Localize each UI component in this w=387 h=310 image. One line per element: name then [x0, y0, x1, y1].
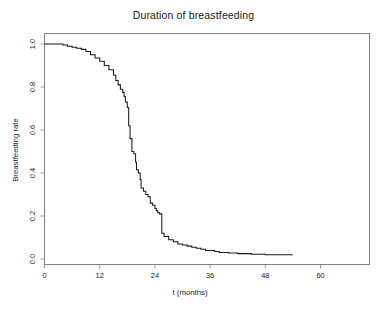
survival-curve-chart: 0 12 24 36 48 60 t (months) 0.0 0.2 0.4 …	[0, 0, 387, 310]
x-tick-label-48: 48	[261, 271, 269, 280]
x-tick-label-24: 24	[151, 271, 159, 280]
y-tick-label-0-6: 0.6	[28, 125, 37, 135]
y-tick-label-0-2: 0.2	[28, 211, 37, 221]
y-axis-title: Breastfeeding rate	[11, 118, 20, 182]
chart-figure: Duration of breastfeeding 0 12 24 36 48 …	[0, 0, 387, 310]
x-tick-label-60: 60	[316, 271, 324, 280]
plot-frame	[45, 34, 370, 265]
y-tick-label-1-0: 1.0	[28, 39, 37, 49]
x-tick-label-36: 36	[206, 271, 214, 280]
y-tick-label-0-8: 0.8	[28, 82, 37, 92]
x-axis-tick-labels: 0 12 24 36 48 60	[42, 271, 324, 280]
x-axis-title: t (months)	[172, 288, 207, 297]
y-axis-tick-labels: 0.0 0.2 0.4 0.6 0.8 1.0	[28, 39, 37, 264]
y-axis-ticks	[41, 44, 45, 259]
y-tick-label-0-4: 0.4	[28, 168, 37, 178]
y-tick-label-0-0: 0.0	[28, 254, 37, 264]
x-axis-ticks	[45, 265, 321, 269]
x-tick-label-12: 12	[96, 271, 104, 280]
x-tick-label-0: 0	[42, 271, 46, 280]
km-survival-curve	[45, 44, 293, 255]
